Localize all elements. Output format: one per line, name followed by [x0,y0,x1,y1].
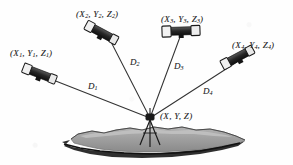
comma: , [187,14,190,24]
station-label-4: (X4, Y4, Z4) [232,41,274,50]
subscript: 2 [137,61,140,67]
paren-close: ) [115,9,118,19]
comma: , [22,48,25,58]
distance-label-4: D4 [203,87,213,96]
station-icon-2[interactable] [83,20,120,47]
distance-label-1: D1 [88,82,98,91]
station-label-2: (X2, Y2, Z2) [76,10,118,19]
paren-close: ) [271,40,274,50]
station-lens-3 [162,26,171,37]
station-eyepiece-3 [191,25,200,35]
comma: , [244,40,247,50]
station-icon-1[interactable] [21,63,58,87]
distance-label-2: D2 [130,58,140,67]
paren-close: ) [49,48,52,58]
comma: , [36,48,39,58]
paren-close: ) [200,14,203,24]
comma: , [102,9,105,19]
station-mount-3 [179,34,184,38]
station-label-3: (X3, Y3, Z3) [161,15,203,24]
diagram-canvas: (X1, Y1, Z1) (X2, Y2, Z2) (X3, Y3, Z3) (… [0,0,293,165]
diagram-svg [0,0,293,165]
sight-lines [48,37,240,118]
station-icon-3[interactable] [162,25,200,39]
sight-line-1 [48,78,150,118]
station-label-1: (X1, Y1, Z1) [10,49,52,58]
sight-line-2 [109,38,150,118]
sight-line-3 [150,37,180,118]
comma: , [258,40,261,50]
target-label: (X, Y, Z) [160,112,192,121]
distance-label-3: D3 [174,62,184,71]
subscript: 4 [210,90,213,96]
subscript: 3 [181,65,184,71]
comma: , [173,14,176,24]
terrain [62,127,245,158]
subscript: 1 [95,85,98,91]
comma: , [169,111,172,121]
comma: , [88,9,91,19]
paren-close: ) [189,111,192,121]
comma: , [179,111,182,121]
